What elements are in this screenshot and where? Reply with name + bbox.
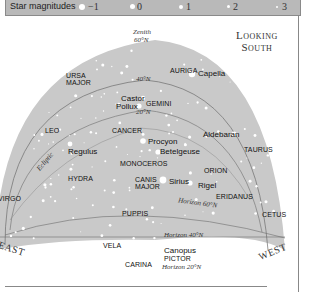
star-canopus (157, 243, 163, 249)
star-label-betelgeuse: Betelgeuse (160, 148, 200, 156)
zenith-lat-label: 60°N (134, 37, 148, 44)
faint-star (72, 164, 74, 166)
faint-star (62, 149, 64, 151)
faint-star (52, 141, 54, 143)
faint-star (56, 114, 58, 116)
faint-star (50, 183, 53, 186)
faint-star (132, 79, 134, 81)
constellation-leo: LEO (45, 127, 59, 134)
horizon40-label: Horizon 40°N (164, 232, 203, 239)
faint-star (183, 64, 185, 66)
constellation-ursa-major-line1: URSA (66, 72, 91, 79)
faint-star (212, 212, 215, 215)
faint-star (264, 200, 267, 203)
faint-star (74, 133, 76, 135)
faint-star (161, 223, 162, 224)
faint-star (112, 191, 115, 194)
faint-star (196, 101, 198, 103)
faint-star (157, 157, 158, 158)
faint-star (202, 211, 203, 212)
faint-star (22, 227, 25, 230)
faint-star (146, 218, 148, 220)
faint-star (267, 154, 269, 156)
faint-star (80, 118, 81, 119)
faint-star (187, 103, 188, 104)
faint-star (33, 148, 35, 150)
faint-star (72, 186, 74, 188)
faint-star (111, 66, 112, 67)
constellation-orion: ORION (204, 167, 227, 174)
faint-star (139, 156, 140, 157)
faint-star (15, 231, 17, 233)
faint-star (260, 202, 262, 204)
faint-star (249, 180, 252, 183)
faint-star (113, 179, 116, 182)
constellation-canis-major-line2: MAJOR (135, 183, 160, 190)
faint-star (160, 90, 162, 92)
faint-star (112, 206, 115, 209)
magnitude-dot-2 (227, 5, 230, 8)
faint-star (129, 190, 131, 192)
faint-star (200, 59, 202, 61)
star-label-sirius: Sirius (169, 178, 189, 186)
faint-star (149, 149, 151, 151)
faint-star (190, 184, 191, 185)
constellation-vela: VELA (103, 242, 121, 249)
faint-star (205, 107, 208, 110)
faint-star (96, 60, 98, 62)
faint-star (176, 120, 178, 122)
faint-star (152, 221, 154, 223)
faint-star (246, 157, 247, 158)
faint-star (153, 237, 155, 239)
star-label-rigel: Rigel (198, 182, 216, 190)
constellation-carina: CARINA (125, 261, 152, 268)
faint-star (92, 166, 93, 167)
faint-star (120, 71, 123, 74)
faint-star (109, 224, 112, 227)
faint-star (44, 186, 46, 188)
faint-star (104, 190, 106, 192)
faint-star (254, 212, 257, 215)
faint-star (30, 216, 32, 218)
faint-star (96, 68, 98, 70)
faint-star (172, 131, 174, 133)
legend-title: Star magnitudes (10, 1, 76, 11)
faint-star (130, 50, 132, 52)
zenith-label: Zenith (133, 29, 151, 36)
magnitude-dot-0 (130, 4, 135, 9)
faint-star (125, 65, 128, 68)
faint-star (101, 96, 103, 98)
magnitude-dot-neg1 (79, 4, 85, 10)
faint-star (42, 199, 45, 202)
constellation-puppis: PUPPIS (122, 210, 148, 217)
constellation-virgo: VIRGO (0, 195, 21, 202)
faint-star (76, 198, 78, 200)
faint-star (103, 110, 104, 111)
faint-star (118, 122, 121, 125)
constellation-hydra: HYDRA (68, 175, 93, 182)
faint-star (33, 134, 35, 136)
faint-star (59, 129, 61, 131)
magnitude-dot-1 (179, 5, 183, 9)
constellation-pictor: PICTOR (164, 255, 191, 262)
legend-label-2: 2 (233, 1, 238, 12)
faint-star (80, 231, 81, 232)
legend-label-0: 0 (137, 1, 142, 12)
faint-star (48, 143, 49, 144)
constellation-canis-major: CANIS MAJOR (135, 176, 160, 191)
faint-star (38, 140, 40, 142)
faint-star (171, 113, 173, 115)
faint-star (58, 174, 60, 176)
faint-star (230, 81, 231, 82)
faint-star (40, 133, 43, 136)
lat40-label: 40°N (136, 76, 150, 83)
faint-star (91, 95, 93, 97)
faint-star (50, 196, 52, 198)
faint-star (103, 93, 105, 95)
star-label-regulus: Regulus (68, 148, 97, 156)
constellation-canis-major-line1: CANIS (135, 176, 160, 183)
faint-star (165, 114, 167, 116)
constellation-gemini: GEMINI (146, 100, 172, 107)
faint-star (10, 235, 12, 237)
faint-star (188, 136, 191, 139)
